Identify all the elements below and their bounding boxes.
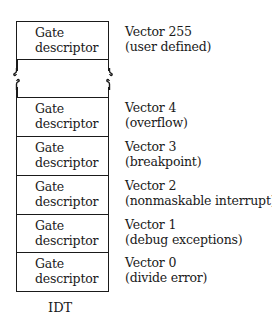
- cell-line1: Gate: [35, 25, 98, 40]
- cell-line2: descriptor: [35, 155, 98, 170]
- cell-line2: descriptor: [35, 233, 98, 248]
- vector-label-255: Vector 255 (user defined): [125, 24, 211, 54]
- idt-entry-0: Gate descriptor: [16, 252, 109, 292]
- idt-entry-1: Gate descriptor: [16, 214, 109, 253]
- cell-line2: descriptor: [35, 40, 98, 55]
- idt-entry-255: Gate descriptor: [16, 21, 109, 60]
- gate-descriptor-label: Gate descriptor: [35, 218, 98, 248]
- gate-descriptor-label: Gate descriptor: [35, 101, 98, 131]
- break-mark-left-icon: [11, 68, 21, 90]
- gate-descriptor-label: Gate descriptor: [35, 140, 98, 170]
- break-mark-right-icon: [105, 68, 115, 90]
- vector-label-2: Vector 2 (nonmaskable interrupt): [125, 178, 272, 208]
- cell-line1: Gate: [35, 140, 98, 155]
- cell-line2: descriptor: [35, 194, 98, 209]
- vector-description: (user defined): [125, 39, 211, 54]
- vector-number: Vector 2: [125, 178, 272, 193]
- diagram-caption: IDT: [48, 300, 72, 315]
- cell-line2: descriptor: [35, 271, 98, 286]
- cell-line2: descriptor: [35, 116, 98, 131]
- vector-description: (divide error): [125, 270, 207, 285]
- cell-line1: Gate: [35, 256, 98, 271]
- vector-description: (overflow): [125, 115, 188, 130]
- vector-number: Vector 3: [125, 139, 201, 154]
- cell-line1: Gate: [35, 179, 98, 194]
- vector-label-0: Vector 0 (divide error): [125, 255, 207, 285]
- gate-descriptor-label: Gate descriptor: [35, 179, 98, 209]
- vector-label-4: Vector 4 (overflow): [125, 100, 188, 130]
- gate-descriptor-label: Gate descriptor: [35, 25, 98, 55]
- cell-line1: Gate: [35, 218, 98, 233]
- vector-number: Vector 1: [125, 217, 242, 232]
- vector-label-3: Vector 3 (breakpoint): [125, 139, 201, 169]
- vector-description: (debug exceptions): [125, 232, 242, 247]
- idt-entry-2: Gate descriptor: [16, 175, 109, 215]
- vector-label-1: Vector 1 (debug exceptions): [125, 217, 242, 247]
- vector-description: (breakpoint): [125, 154, 201, 169]
- idt-entry-3: Gate descriptor: [16, 136, 109, 176]
- vector-description: (nonmaskable interrupt): [125, 193, 272, 208]
- cell-line1: Gate: [35, 101, 98, 116]
- vector-number: Vector 4: [125, 100, 188, 115]
- idt-entry-4: Gate descriptor: [16, 97, 109, 137]
- gate-descriptor-label: Gate descriptor: [35, 256, 98, 286]
- vector-number: Vector 0: [125, 255, 207, 270]
- table-break-gap: [16, 59, 109, 98]
- vector-number: Vector 255: [125, 24, 211, 39]
